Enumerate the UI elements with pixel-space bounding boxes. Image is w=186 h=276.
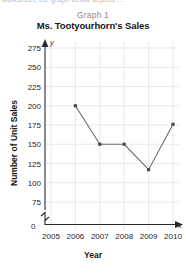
x-axis-tick-labels: 200520062007200820092010: [0, 232, 186, 244]
y-axis-letter: y: [50, 38, 54, 47]
y-tick-label: 275: [15, 44, 41, 53]
sales-line-chart-figure: Graph 1 Ms. Tootyourhorn's Sales 2006: 2…: [0, 0, 186, 276]
y-tick-label: 75: [15, 198, 41, 207]
x-tick-label: 2010: [164, 232, 182, 241]
x-tick-label: 2006: [66, 232, 84, 241]
chart-axes: [30, 36, 186, 240]
y-tick-label: 250: [15, 63, 41, 72]
y-axis-title: Number of Unit Sales: [9, 88, 19, 198]
x-tick-label: 2008: [115, 232, 133, 241]
x-tick-label: 2005: [42, 232, 60, 241]
x-tick-label: 2009: [140, 232, 158, 241]
x-axis-title: Year: [0, 250, 186, 260]
origin-zero-label: 0: [31, 222, 35, 231]
x-axis-letter: x: [178, 221, 182, 230]
x-tick-label: 2007: [91, 232, 109, 241]
